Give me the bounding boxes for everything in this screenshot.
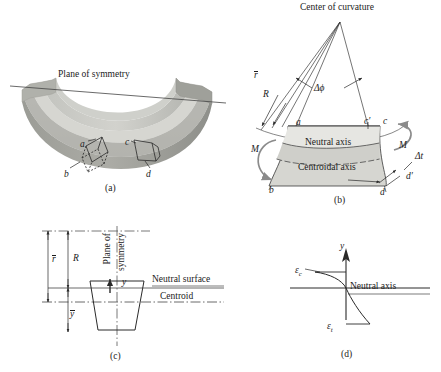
panel-d-y-axis-label: y [340, 242, 344, 252]
panel-b-moment-right-label: M [399, 141, 407, 151]
panel-b-centroidal-axis-label: Centroidal axis [298, 163, 356, 173]
moment-arc-left [258, 140, 276, 180]
panel-a-caption: (a) [105, 184, 116, 194]
panel-b-label-c-prime: c′ [364, 117, 370, 127]
strain-curve [315, 272, 370, 324]
panel-b-label-d-prime: d′ [406, 172, 413, 182]
panel-a-label-c: c [125, 138, 129, 148]
panel-c-r-bar-label: r [52, 255, 56, 265]
panel-c-plane-label-line2: symmetry [117, 233, 127, 271]
delta-phi-arrow-right [344, 78, 362, 88]
panel-b-neutral-axis-label: Neutral axis [305, 138, 351, 148]
panel-b-label-b: b [269, 186, 274, 196]
panel-b-bending-geometry: Center of curvature r R Δϕ a c′ c Neutra… [228, 0, 441, 210]
delta-t-extension [386, 176, 400, 186]
panel-c-centroid-label: Centroid [160, 292, 193, 302]
panel-d-strain-distribution: y εc Neutral axis εt (d) [258, 200, 441, 372]
R-arrow [273, 103, 286, 125]
panel-c-R-label: R [73, 254, 79, 264]
panel-c-plane-label-line1: Plane of [103, 233, 113, 264]
panel-b-moment-left-label: M [251, 145, 259, 155]
panel-a-curved-member-3d: Plane of symmetry a b c d (a) [0, 0, 232, 200]
panel-c-y-label: y [122, 278, 126, 288]
panel-d-strain-compression-label: εc [295, 266, 302, 278]
panel-d-caption: (d) [341, 350, 352, 360]
panel-a-label-d: d [146, 170, 151, 180]
panel-d-neutral-axis-label: Neutral axis [350, 282, 396, 292]
panel-c-y-bar-label: y [70, 310, 74, 320]
panel-b-center-of-curvature-label: Center of curvature [300, 3, 374, 13]
delta-t-leader [404, 162, 412, 170]
panel-c-neutral-surface-label: Neutral surface [152, 275, 210, 285]
epsilon-c-leader [305, 269, 320, 272]
panel-a-label-a: a [80, 140, 85, 150]
panel-a-drawing [0, 0, 232, 200]
panel-b-label-d: d [380, 188, 385, 198]
panel-d-strain-tension-label: εt [327, 322, 333, 334]
leader-b [70, 162, 80, 168]
panel-b-r-bar-label: r [254, 71, 258, 81]
panel-c-cross-section: r R y Plane of symmetry y Neutral surfac… [28, 200, 260, 372]
panel-b-delta-phi-label: Δϕ [314, 84, 325, 94]
panel-a-label-b: b [64, 170, 69, 180]
panel-b-delta-t-label: Δt [415, 152, 423, 162]
panel-a-plane-of-symmetry-label: Plane of symmetry [58, 70, 130, 80]
panel-b-R-label: R [263, 90, 269, 100]
panel-c-drawing [28, 200, 260, 372]
panel-b-label-c: c [383, 117, 387, 127]
panel-b-label-a: a [296, 118, 301, 128]
panel-c-caption: (c) [110, 352, 121, 362]
